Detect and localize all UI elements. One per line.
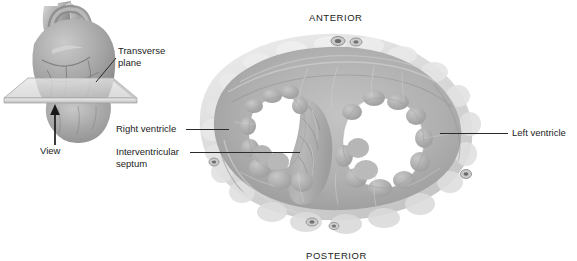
leader-line-left-ventricle: [440, 133, 508, 134]
leader-line-right-ventricle: [186, 129, 229, 130]
leader-line-interventricular-septum: [190, 152, 300, 153]
heart-3d-illustration: [0, 0, 190, 170]
label-view: View: [40, 145, 60, 157]
transverse-plane-slab: [4, 78, 137, 103]
figure-transverse-section-of-heart: Transverseplane View: [0, 0, 577, 261]
label-right-ventricle: Right ventricle: [116, 123, 176, 135]
cross-section-illustration: [188, 22, 488, 242]
whole-heart-orientation-diagram: Transverseplane View: [0, 0, 190, 170]
label-anterior: ANTERIOR: [309, 12, 363, 24]
heart-transverse-cross-section: [188, 22, 488, 242]
label-transverse-plane: Transverseplane: [118, 45, 180, 68]
label-left-ventricle: Left ventricle: [512, 127, 566, 139]
label-posterior: POSTERIOR: [306, 250, 367, 261]
label-interventricular-septum: Interventricularseptum: [116, 146, 188, 169]
